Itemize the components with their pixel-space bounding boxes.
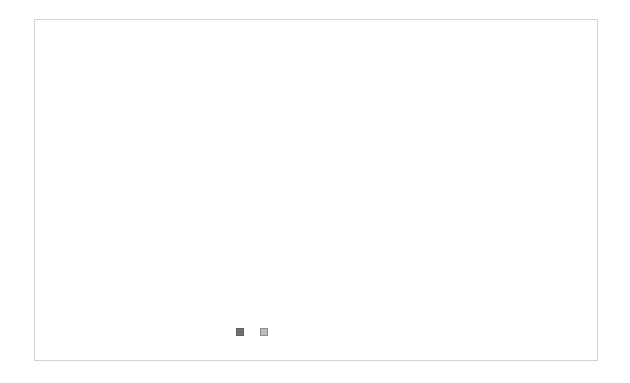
legend bbox=[236, 328, 284, 336]
legend-swatch-non-stroke bbox=[236, 328, 244, 336]
legend-item-non-stroke bbox=[236, 328, 248, 336]
chart-frame bbox=[34, 19, 598, 361]
legend-swatch-stroke bbox=[260, 328, 268, 336]
legend-item-stroke bbox=[260, 328, 272, 336]
